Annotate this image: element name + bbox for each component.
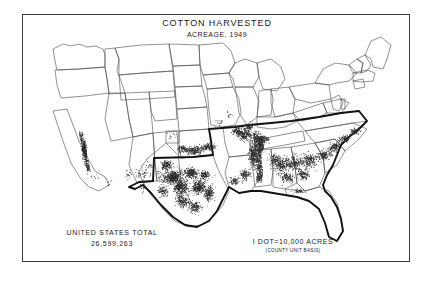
map-frame: COTTON HARVESTED ACREAGE, 1949 [22, 14, 410, 262]
state-boundaries [53, 37, 391, 241]
cotton-harvested-map-figure: COTTON HARVESTED ACREAGE, 1949 [0, 0, 423, 285]
usa-dot-density-map [23, 15, 411, 263]
